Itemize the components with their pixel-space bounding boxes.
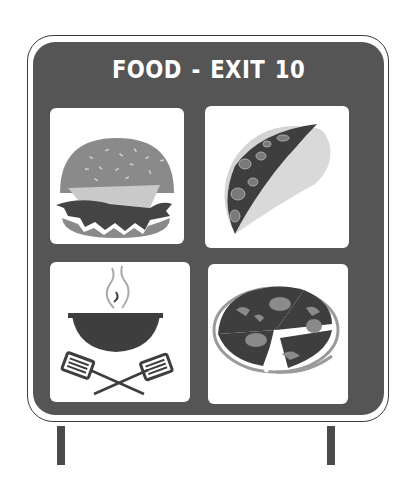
pizza-icon [208, 264, 348, 404]
sign-title: FOOD - EXIT 10 [59, 55, 357, 84]
hamburger-icon [50, 108, 184, 244]
barbecue-grill-icon [50, 262, 190, 402]
panel-barbecue [50, 262, 190, 402]
panel-taco [205, 106, 349, 248]
panel-hamburger [50, 108, 184, 244]
food-exit-sign: FOOD - EXIT 10 [33, 42, 384, 415]
sign-post-left [57, 426, 65, 465]
sign-post-right [327, 426, 335, 465]
taco-icon [205, 106, 349, 248]
panel-pizza [208, 264, 348, 404]
